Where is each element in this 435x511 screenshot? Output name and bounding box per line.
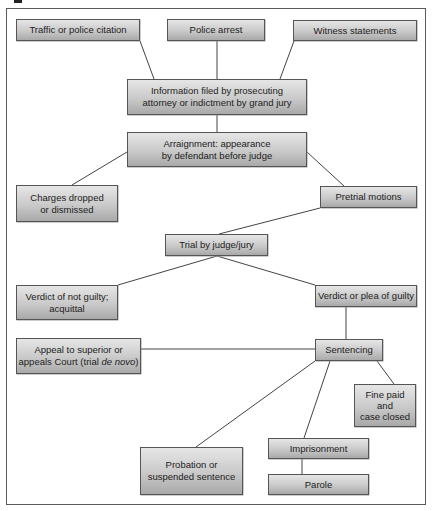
node-label-line2: and <box>377 400 393 411</box>
node-label-line2: or dismissed <box>40 204 93 216</box>
node-parole: Parole <box>268 474 369 495</box>
appeal-text-prefix: appeals Court (trial <box>19 356 102 367</box>
node-label: Pretrial motions <box>336 191 402 203</box>
node-label: Police arrest <box>190 24 243 36</box>
node-label-line3: case closed <box>360 411 410 422</box>
node-label-line1: Probation or <box>166 459 218 471</box>
node-label: Sentencing <box>325 344 373 356</box>
node-verdict-guilty: Verdict or plea of guilty <box>315 285 417 307</box>
edge-sentencing-probation <box>196 361 315 447</box>
node-pretrial-motions: Pretrial motions <box>320 186 417 208</box>
edge-sentencing-imprisonment <box>304 361 330 438</box>
node-traffic-citation: Traffic or police citation <box>16 19 140 41</box>
appeal-text-suffix: ) <box>135 356 138 367</box>
node-witness-statements: Witness statements <box>293 20 417 41</box>
edge-sentencing-fine <box>377 361 394 384</box>
node-label-line1: Verdict of not guilty; <box>26 291 109 303</box>
node-label: Verdict or plea of guilty <box>318 290 414 302</box>
edge-arraignment-charges <box>72 152 127 185</box>
node-label-line2: by defendant before judge <box>162 150 272 162</box>
node-label-line2: attorney or indictment by grand jury <box>143 97 292 109</box>
node-label: Parole <box>305 479 332 491</box>
node-label-line1: Appeal to superior or <box>34 344 122 356</box>
edge-arraignment-pretrial <box>307 152 344 186</box>
node-fine-paid: Fine paid and case closed <box>354 384 416 427</box>
node-label-line1: Arraignment: appearance <box>163 138 270 150</box>
edge-witness-information <box>280 41 294 79</box>
node-trial: Trial by judge/jury <box>165 234 268 256</box>
node-label: Traffic or police citation <box>29 24 126 36</box>
node-label-line2: appeals Court (trial de novo) <box>19 356 139 368</box>
node-label-line2: suspended sentence <box>148 471 236 483</box>
node-label-line1: Fine paid <box>365 389 404 400</box>
node-label: Trial by judge/jury <box>179 239 254 251</box>
edge-trial-guilty <box>217 256 315 285</box>
node-police-arrest: Police arrest <box>167 19 265 41</box>
node-appeal: Appeal to superior or appeals Court (tri… <box>16 338 141 374</box>
node-verdict-not-guilty: Verdict of not guilty; acquittal <box>16 285 118 320</box>
appeal-text-italic: de novo <box>101 356 135 367</box>
node-charges-dropped: Charges dropped or dismissed <box>16 185 118 222</box>
node-sentencing: Sentencing <box>315 339 383 361</box>
edge-pretrial-trial <box>219 208 320 234</box>
node-imprisonment: Imprisonment <box>268 438 369 459</box>
node-information-filed: Information filed by prosecuting attorne… <box>127 79 307 115</box>
node-label-line1: Charges dropped <box>30 192 103 204</box>
edge-trial-notguilty <box>118 256 217 285</box>
edge-traffic-information <box>140 41 154 79</box>
node-probation: Probation or suspended sentence <box>140 447 243 495</box>
node-label: Imprisonment <box>290 443 348 455</box>
node-arraignment: Arraignment: appearance by defendant bef… <box>127 132 307 167</box>
node-label-line2: acquittal <box>49 303 84 315</box>
node-label-line1: Information filed by prosecuting <box>151 85 283 97</box>
node-label: Witness statements <box>314 25 397 37</box>
